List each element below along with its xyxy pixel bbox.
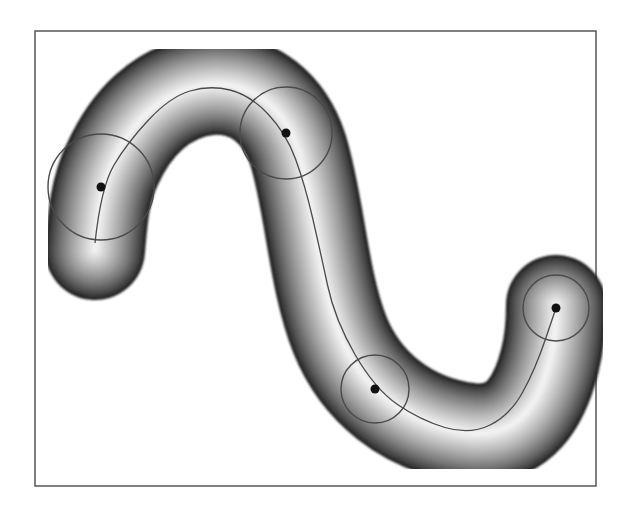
sample-disk-center-dot-1 [97,183,106,192]
sample-disk-center-dot-2 [282,129,291,138]
tube-figure [0,0,628,514]
sample-disk-center-dot-4 [552,304,561,313]
sample-disk-center-dot-3 [371,385,380,394]
